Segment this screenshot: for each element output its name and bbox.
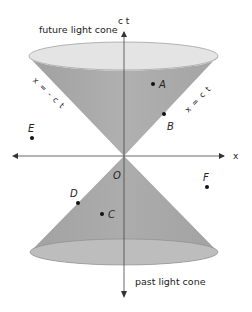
event-point-f: F xyxy=(203,172,209,189)
future-cone-rim xyxy=(29,42,218,70)
event-c-dot xyxy=(100,212,104,216)
event-d-label: D xyxy=(70,188,78,199)
ct-axis-label: c t xyxy=(118,16,130,26)
event-b-dot xyxy=(162,112,166,116)
light-cone-diagram: c t x future light cone past light cone … xyxy=(0,0,252,312)
origin-label: O xyxy=(113,170,121,181)
event-point-d: D xyxy=(70,188,80,205)
future-light-cone-label: future light cone xyxy=(39,24,118,35)
event-c-label: C xyxy=(108,209,115,220)
event-a-label: A xyxy=(158,79,166,90)
event-f-label: F xyxy=(203,172,209,183)
event-a-dot xyxy=(151,82,155,86)
x-axis-left-arrow-icon xyxy=(12,153,18,159)
event-d-dot xyxy=(76,201,80,205)
event-f-dot xyxy=(205,185,209,189)
event-e-label: E xyxy=(28,123,35,134)
light-line-right-label: x = c t xyxy=(183,84,213,114)
past-light-cone-label: past light cone xyxy=(135,276,206,287)
ct-axis-bottom-arrow-icon xyxy=(121,291,127,298)
x-axis-label: x xyxy=(233,151,239,161)
event-point-e: E xyxy=(28,123,35,140)
event-b-label: B xyxy=(167,121,174,132)
event-point-b: B xyxy=(162,112,174,132)
event-e-dot xyxy=(30,136,34,140)
